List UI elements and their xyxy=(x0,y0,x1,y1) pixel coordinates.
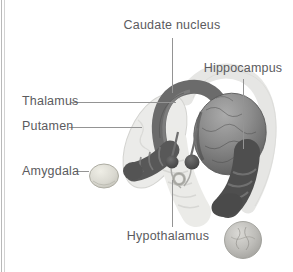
label-caudate-nucleus: Caudate nucleus xyxy=(124,18,221,32)
amygdala-right-shape xyxy=(225,222,262,259)
anatomy-figure: Caudate nucleus Hippocampus Thalamus Put… xyxy=(0,0,293,272)
label-putamen: Putamen xyxy=(22,119,73,133)
label-thalamus: Thalamus xyxy=(22,94,78,108)
label-hypothalamus: Hypothalamus xyxy=(127,229,209,243)
label-amygdala: Amygdala xyxy=(22,164,79,178)
amygdala-shape xyxy=(90,164,119,188)
label-hippocampus: Hippocampus xyxy=(204,61,283,75)
